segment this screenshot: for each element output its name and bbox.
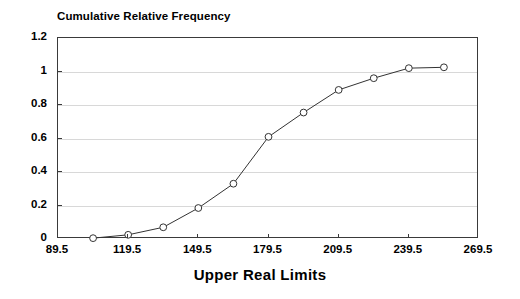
y-tick-mark: [57, 171, 62, 172]
data-point-marker: [335, 87, 342, 94]
data-point-marker: [230, 180, 237, 187]
x-tick-label: 89.5: [46, 243, 68, 255]
x-axis-title: Upper Real Limits: [0, 266, 520, 283]
x-tick-label: 179.5: [253, 243, 282, 255]
data-point-marker: [125, 231, 132, 238]
x-tick-mark: [408, 234, 409, 238]
data-point-marker: [265, 133, 272, 140]
x-tick-label: 269.5: [464, 243, 493, 255]
x-tick-mark: [338, 234, 339, 238]
y-tick-label: 0.6: [0, 131, 47, 143]
y-tick-label: 0.8: [0, 97, 47, 109]
data-series-layer: [58, 38, 479, 239]
data-point-marker: [370, 75, 377, 82]
chart-title: Cumulative Relative Frequency: [57, 10, 231, 22]
data-point-marker: [195, 205, 202, 212]
chart-figure: Cumulative Relative Frequency 00.20.40.6…: [0, 0, 520, 299]
x-tick-mark: [197, 234, 198, 238]
x-tick-mark: [268, 234, 269, 238]
data-line: [93, 67, 444, 238]
plot-area: [57, 37, 478, 238]
y-tick-label: 0.2: [0, 198, 47, 210]
x-tick-mark: [127, 234, 128, 238]
y-tick-label: 0: [0, 231, 47, 243]
data-point-marker: [300, 109, 307, 116]
data-point-marker: [405, 65, 412, 72]
y-tick-label: 0.4: [0, 164, 47, 176]
x-tick-label: 119.5: [113, 243, 141, 255]
x-tick-label: 149.5: [183, 243, 212, 255]
data-point-marker: [441, 64, 448, 71]
y-tick-label: 1.2: [0, 30, 47, 42]
y-tick-mark: [57, 138, 62, 139]
y-tick-mark: [57, 71, 62, 72]
data-point-marker: [160, 224, 167, 231]
x-tick-label: 239.5: [393, 243, 422, 255]
y-tick-label: 1: [0, 64, 47, 76]
data-point-marker: [90, 235, 97, 242]
y-tick-mark: [57, 205, 62, 206]
y-tick-mark: [57, 104, 62, 105]
x-tick-label: 209.5: [323, 243, 352, 255]
